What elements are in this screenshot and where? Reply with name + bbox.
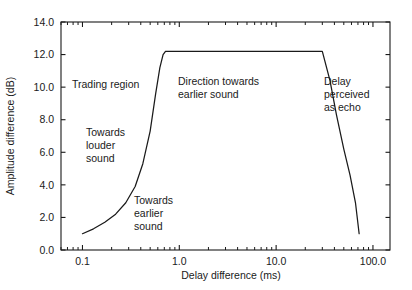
- y-tick-label: 0.0: [39, 244, 54, 256]
- y-tick-label: 12.0: [34, 48, 55, 60]
- trading-region-plot: 0.02.04.06.08.010.012.014.0 0.11.010.010…: [0, 0, 412, 290]
- x-tick-label: 1.0: [172, 255, 187, 267]
- x-axis-major-ticks: [82, 22, 372, 250]
- chart-container: 0.02.04.06.08.010.012.014.0 0.11.010.010…: [0, 0, 412, 290]
- y-tick-label: 6.0: [39, 146, 54, 158]
- x-tick-label: 0.1: [75, 255, 90, 267]
- annotation-delay-perceived-as-echo: Delayperceivedas echo: [324, 75, 370, 113]
- y-tick-label: 4.0: [39, 179, 54, 191]
- y-axis-tick-labels: 0.02.04.06.08.010.012.014.0: [34, 16, 55, 256]
- x-tick-label: 100.0: [360, 255, 386, 267]
- x-tick-label: 10.0: [266, 255, 287, 267]
- annotation-direction-towards-earlier-sound: Direction towardsearlier sound: [178, 75, 259, 100]
- annotation-towards-earlier-sound: Towardsearliersound: [134, 194, 173, 232]
- y-tick-label: 8.0: [39, 113, 54, 125]
- annotation-towards-louder-sound: Towardsloudersound: [86, 126, 125, 164]
- y-tick-label: 2.0: [39, 211, 54, 223]
- y-axis-title: Amplitude difference (dB): [4, 77, 16, 195]
- y-tick-label: 10.0: [34, 81, 55, 93]
- y-tick-label: 14.0: [34, 16, 55, 28]
- x-axis-title: Delay difference (ms): [181, 269, 281, 281]
- plot-annotations: Trading regionTowardsloudersoundTowardse…: [72, 75, 370, 232]
- annotation-trading-region: Trading region: [72, 78, 139, 90]
- x-axis-tick-labels: 0.11.010.0100.0: [75, 255, 386, 267]
